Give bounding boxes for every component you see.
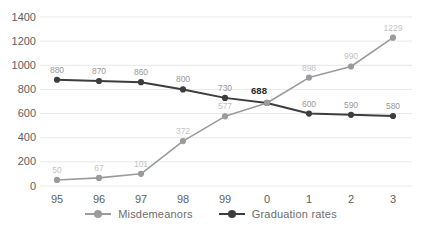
y-axis-tick-label: 1400 (12, 11, 36, 23)
data-label: 730 (218, 83, 232, 93)
x-axis-tick-label: 1 (306, 193, 312, 205)
data-point (264, 100, 270, 106)
legend-label-graduation-rates: Graduation rates (252, 208, 337, 220)
data-point (348, 63, 354, 69)
x-axis-tick-label: 99 (219, 193, 231, 205)
chart-container: 0200400600800100012001400959697989901238… (0, 0, 422, 232)
legend-item-graduation-rates: Graduation rates (219, 208, 337, 220)
data-label: 600 (302, 99, 316, 109)
line-chart: 0200400600800100012001400959697989901238… (0, 0, 422, 208)
data-point (54, 77, 60, 83)
y-axis-tick-label: 1200 (12, 35, 36, 47)
data-label: 50 (52, 165, 62, 175)
data-point (54, 177, 60, 183)
y-axis-tick-label: 600 (18, 107, 36, 119)
y-axis-tick-label: 1000 (12, 59, 36, 71)
data-point (390, 113, 396, 119)
data-label: 580 (386, 101, 400, 111)
data-point (180, 138, 186, 144)
y-axis-tick-label: 800 (18, 83, 36, 95)
legend-item-misdemeanors: Misdemeanors (85, 208, 193, 220)
data-point (348, 112, 354, 118)
x-axis-tick-label: 95 (51, 193, 63, 205)
data-point (222, 95, 228, 101)
data-label: 990 (344, 51, 358, 61)
data-point (138, 79, 144, 85)
data-label: 590 (344, 100, 358, 110)
data-label: 67 (94, 163, 104, 173)
x-axis-tick-label: 97 (135, 193, 147, 205)
y-axis-tick-label: 0 (30, 180, 36, 192)
data-label: 898 (302, 63, 316, 73)
data-point (222, 113, 228, 119)
data-label: 372 (176, 126, 190, 136)
data-label: 860 (134, 67, 148, 77)
x-axis-tick-label: 3 (390, 193, 396, 205)
data-label: 880 (50, 65, 64, 75)
data-point (306, 110, 312, 116)
data-point (96, 78, 102, 84)
data-point (306, 74, 312, 80)
legend-label-misdemeanors: Misdemeanors (118, 208, 193, 220)
x-axis-tick-label: 0 (264, 193, 270, 205)
data-point (180, 86, 186, 92)
data-label: 1229 (384, 23, 403, 33)
misdemeanors-legend-marker-icon (85, 210, 111, 218)
x-axis-tick-label: 98 (177, 193, 189, 205)
x-axis-tick-label: 2 (348, 193, 354, 205)
data-label: 870 (92, 66, 106, 76)
data-point (96, 175, 102, 181)
chart-legend: Misdemeanors Graduation rates (0, 208, 422, 220)
graduation-rates-legend-marker-icon (219, 210, 245, 218)
data-label: 101 (134, 159, 148, 169)
x-axis-tick-label: 96 (93, 193, 105, 205)
data-point (390, 35, 396, 41)
crossing-point-label: 688 (251, 85, 267, 96)
data-label: 800 (176, 74, 190, 84)
y-axis-tick-label: 200 (18, 155, 36, 167)
data-label: 577 (218, 101, 232, 111)
y-axis-tick-label: 400 (18, 131, 36, 143)
data-point (138, 171, 144, 177)
